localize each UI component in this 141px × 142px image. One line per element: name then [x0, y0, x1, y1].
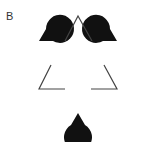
pacman-inducer-right [82, 15, 117, 43]
pacman-inducer-left [39, 15, 74, 43]
pacman-inducer-bottom [64, 113, 92, 142]
outline-corner-bottom-left [39, 65, 65, 89]
kanizsa-figure [0, 0, 141, 142]
outline-corner-bottom-right [91, 65, 117, 89]
